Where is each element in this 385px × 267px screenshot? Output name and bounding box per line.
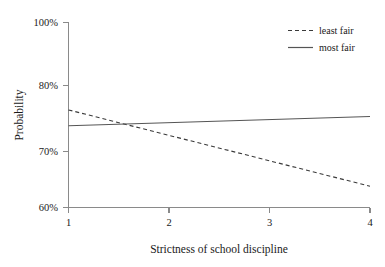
legend-label-most-fair: most fair [319,42,355,53]
x-tick-label-4: 4 [367,217,373,228]
x-axis-tickmarks [69,208,371,214]
y-axis-tickmarks [63,23,69,208]
x-axis-title: Strictness of school discipline [150,243,288,256]
chart-legend: least fair most fair [288,25,355,53]
y-tick-label-80: 80% [39,80,59,91]
line-chart-canvas: 100% 80% 70% 60% 1 2 3 4 Probability Str… [0,0,385,267]
y-tick-label-60: 60% [39,202,59,213]
y-tick-label-70: 70% [39,146,59,157]
x-tick-label-1: 1 [66,217,71,228]
x-tick-label-2: 2 [166,217,171,228]
y-tick-label-100: 100% [34,17,59,28]
legend-label-least-fair: least fair [319,25,354,36]
y-axis-title: Probability [13,89,26,140]
series-line-most-fair [69,117,371,126]
x-tick-label-3: 3 [267,217,272,228]
chart-figure: 100% 80% 70% 60% 1 2 3 4 Probability Str… [0,0,385,267]
